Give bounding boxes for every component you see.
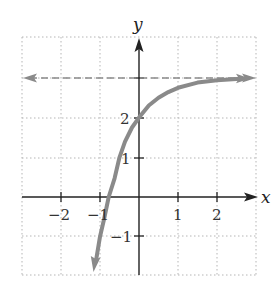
x-axis-label: x [261, 187, 271, 207]
x-tick-label-neg2: −2 [48, 206, 70, 224]
y-tick-label-neg1: −1 [110, 228, 132, 246]
y-tick-label-1: 1 [121, 150, 131, 168]
y-axis-label: y [132, 14, 143, 34]
graph: y x −2 −1 1 2 2 1 −1 [0, 0, 274, 295]
x-tick-label-neg1: −1 [87, 206, 109, 224]
x-tick-label-1: 1 [173, 206, 183, 224]
y-tick-label-2: 2 [120, 110, 130, 128]
x-tick-label-2: 2 [212, 206, 222, 224]
